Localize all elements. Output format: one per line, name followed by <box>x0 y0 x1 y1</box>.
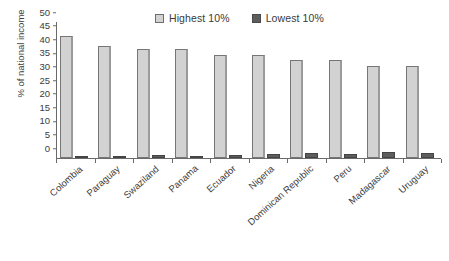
bar-lowest-10 <box>382 152 395 158</box>
y-axis-tick: 15 <box>34 103 56 113</box>
x-axis-tick-mark <box>249 159 250 163</box>
bar-lowest-10 <box>305 153 318 158</box>
bars-layer <box>56 22 440 158</box>
bar-lowest-10 <box>152 155 165 158</box>
bar-highest-10 <box>98 46 111 158</box>
y-axis-tick-label: 50 <box>34 8 50 18</box>
x-axis-label: Swaziland <box>122 164 161 200</box>
bar-highest-10 <box>252 55 265 158</box>
bar-highest-10 <box>214 55 227 158</box>
bar-lowest-10 <box>344 154 357 158</box>
y-axis-tick: 10 <box>34 117 56 127</box>
bar-highest-10 <box>175 49 188 158</box>
x-axis-tick-mark <box>441 159 442 163</box>
y-axis-tick-label: 0 <box>34 144 50 154</box>
y-axis-tick: 25 <box>34 76 56 86</box>
bar-group <box>210 22 248 158</box>
bar-group <box>286 22 324 158</box>
bar-group <box>133 22 171 158</box>
x-axis-label: Ecuador <box>205 164 238 195</box>
y-axis-tick: 5 <box>34 130 56 140</box>
x-axis-tick-mark <box>95 159 96 163</box>
y-axis-tick-label: 25 <box>34 76 50 86</box>
bar-lowest-10 <box>229 155 242 158</box>
x-axis-label: Panama <box>167 164 200 195</box>
bar-highest-10 <box>290 60 303 158</box>
y-axis-tick: 0 <box>34 144 56 154</box>
bar-lowest-10 <box>267 154 280 158</box>
x-axis-tick-mark <box>364 159 365 163</box>
bar-group <box>56 22 94 158</box>
bar-chart-figure: Highest 10% Lowest 10% % of national inc… <box>0 0 449 261</box>
bar-group <box>325 22 363 158</box>
x-axis-label: Nigeria <box>247 164 276 191</box>
x-axis-label: Uruguay <box>397 164 430 195</box>
y-axis-tick: 30 <box>34 62 56 72</box>
bar-lowest-10 <box>75 156 88 158</box>
y-axis-tick: 50 <box>34 8 56 18</box>
x-axis-tick-mark <box>56 159 57 163</box>
y-axis-tick-label: 40 <box>34 35 50 45</box>
bar-lowest-10 <box>113 156 126 158</box>
x-axis-label: Paraguay <box>85 164 122 198</box>
x-axis-tick-mark <box>326 159 327 163</box>
bar-highest-10 <box>406 66 419 158</box>
x-axis-label: Colombia <box>48 164 84 198</box>
bar-lowest-10 <box>190 156 203 158</box>
y-axis-tick-label: 5 <box>34 130 50 140</box>
x-axis-tick-mark <box>403 159 404 163</box>
y-axis-tick-label: 30 <box>34 62 50 72</box>
y-axis-tick-label: 20 <box>34 89 50 99</box>
bar-highest-10 <box>329 60 342 158</box>
y-axis-tick-mark <box>53 12 56 13</box>
y-axis-title: % of national income <box>15 0 26 118</box>
x-axis-labels: ColombiaParaguaySwazilandPanamaEcuadorNi… <box>56 164 441 254</box>
bar-group <box>248 22 286 158</box>
bar-group <box>402 22 440 158</box>
y-axis-tick: 20 <box>34 89 56 99</box>
y-axis-tick-label: 35 <box>34 49 50 59</box>
x-axis-tick-mark <box>172 159 173 163</box>
bar-group <box>363 22 401 158</box>
bar-group <box>94 22 132 158</box>
bar-highest-10 <box>137 49 150 158</box>
x-axis-tick-mark <box>210 159 211 163</box>
bar-lowest-10 <box>421 153 434 158</box>
y-axis-tick: 35 <box>34 49 56 59</box>
bar-highest-10 <box>367 66 380 158</box>
bar-group <box>171 22 209 158</box>
bar-highest-10 <box>60 36 73 158</box>
y-axis-tick-label: 15 <box>34 103 50 113</box>
x-axis-tick-mark <box>287 159 288 163</box>
y-axis-tick: 45 <box>34 21 56 31</box>
x-axis-tick-mark <box>133 159 134 163</box>
y-axis-tick-label: 45 <box>34 21 50 31</box>
y-axis-tick: 40 <box>34 35 56 45</box>
y-axis-tick-label: 10 <box>34 117 50 127</box>
plot-area: 05101520253035404550 <box>56 22 440 158</box>
x-axis-label: Peru <box>332 164 353 184</box>
